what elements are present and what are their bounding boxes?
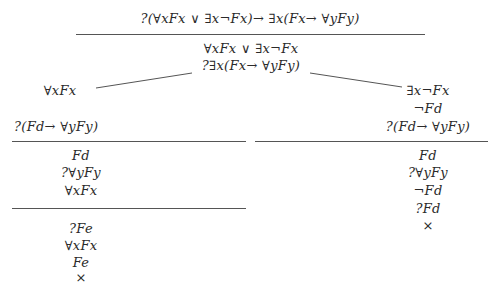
right-rule-1 — [255, 141, 488, 142]
left-rule-2 — [12, 208, 246, 209]
right-step1-line4: ?Fd — [415, 202, 440, 215]
right-closed-mark: × — [422, 219, 433, 232]
right-branch-goal: ?(Fd→ ∀yFy) — [386, 120, 470, 133]
right-branch-head: ∃x¬Fx — [406, 84, 449, 97]
left-step2-line2: ∀xFx — [65, 239, 98, 252]
left-branch-line — [96, 73, 192, 88]
left-rule-1 — [12, 141, 246, 142]
left-branch-goal: ?(Fd→ ∀yFy) — [14, 120, 98, 133]
left-step2-line1: ?Fe — [69, 222, 93, 235]
left-closed-mark: × — [75, 271, 86, 284]
left-step1-line2: ?∀yFy — [61, 166, 101, 179]
right-step1-line3: ¬Fd — [413, 184, 442, 197]
right-branch-line — [310, 73, 402, 87]
left-step1-line1: Fd — [72, 149, 90, 162]
left-branch-head: ∀xFx — [44, 84, 77, 97]
right-step1-line1: Fd — [419, 149, 437, 162]
left-step2-line3: Fe — [73, 256, 90, 269]
right-step1-line2: ?∀yFy — [408, 166, 448, 179]
left-step1-line3: ∀xFx — [65, 184, 98, 197]
right-branch-line2: ¬Fd — [413, 102, 442, 115]
